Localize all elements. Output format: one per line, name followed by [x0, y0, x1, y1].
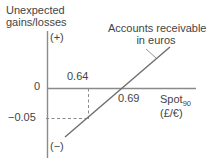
- annotation-leader-line: [146, 49, 156, 58]
- figure-canvas: Unexpectedgains/losses Accounts receivab…: [0, 0, 209, 164]
- series-annotation-line1: Accounts receivable: [108, 22, 206, 34]
- series-annotation: Accounts receivablein euros: [108, 22, 204, 47]
- x-axis-label-subscript: 90: [183, 99, 191, 108]
- x-axis-label: Spot90: [160, 93, 191, 105]
- x-value-label-064: 0.64: [67, 70, 88, 82]
- negative-axis-marker: (−): [50, 140, 64, 152]
- x-value-label-069: 0.69: [118, 92, 139, 104]
- y-axis-label-line2: gains/losses: [6, 16, 67, 28]
- y-axis-label: Unexpectedgains/losses: [6, 4, 67, 29]
- y-tick-label-zero: 0: [34, 80, 40, 92]
- y-tick-label-negative: −0.05: [8, 111, 36, 123]
- y-axis-label-line1: Unexpected: [6, 4, 65, 16]
- x-axis-units: (£/€): [160, 107, 183, 119]
- positive-axis-marker: (+): [50, 31, 64, 43]
- series-annotation-line2: in euros: [136, 34, 175, 46]
- x-axis-label-text: Spot: [160, 93, 183, 105]
